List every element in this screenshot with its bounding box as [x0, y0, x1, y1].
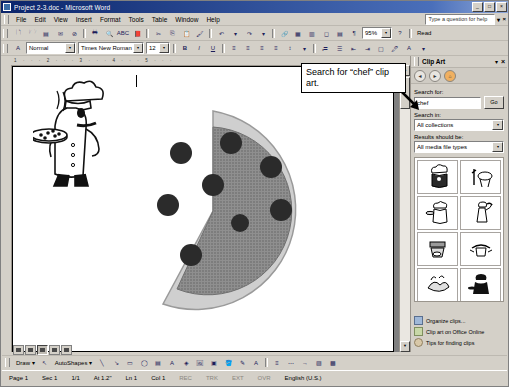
- microsoft-word-help-icon[interactable]: ?: [394, 27, 407, 40]
- organize-clips-link[interactable]: Organize clips...: [414, 316, 504, 325]
- bold-button[interactable]: B: [179, 42, 192, 55]
- chevron-down-icon[interactable]: ▾: [298, 42, 311, 55]
- scrollbar-track[interactable]: [400, 109, 410, 341]
- bullets-icon[interactable]: ☰: [333, 42, 346, 55]
- 3d-style-icon[interactable]: ▩: [327, 356, 340, 369]
- clip-art-results-grid[interactable]: [414, 157, 504, 302]
- print-preview-icon[interactable]: 🔍: [103, 27, 116, 40]
- spelling-icon[interactable]: ABC: [117, 27, 130, 40]
- chevron-down-icon[interactable]: ▾: [417, 42, 430, 55]
- chevron-down-icon[interactable]: ▾: [492, 142, 503, 152]
- formatting-toolbar-grip[interactable]: [3, 44, 8, 53]
- chevron-down-icon[interactable]: ▾: [159, 43, 169, 53]
- scroll-down-icon[interactable]: ▼: [400, 341, 410, 352]
- forward-arrow-icon[interactable]: ►: [429, 70, 441, 82]
- print-icon[interactable]: 🖶: [89, 27, 102, 40]
- show-formatting-icon[interactable]: ¶: [348, 27, 361, 40]
- redo-icon[interactable]: ↷: [243, 27, 256, 40]
- menu-item-edit[interactable]: Edit: [30, 15, 49, 24]
- copy-icon[interactable]: ⎘: [166, 27, 179, 40]
- align-left-icon[interactable]: ≡: [228, 42, 241, 55]
- italic-button[interactable]: I: [193, 42, 206, 55]
- font-combo[interactable]: Times New Roman ▾: [78, 42, 144, 54]
- line-color-icon[interactable]: ✎: [236, 356, 249, 369]
- menu-item-tools[interactable]: Tools: [125, 15, 148, 24]
- align-center-icon[interactable]: ≡: [242, 42, 255, 55]
- normal-view-button[interactable]: [13, 345, 24, 355]
- permission-icon[interactable]: ⊘: [68, 27, 81, 40]
- task-pane-close-icon[interactable]: ×: [501, 58, 505, 65]
- clip-art-online-link[interactable]: Clip art on Office Online: [414, 327, 504, 336]
- highlight-icon[interactable]: 🖊: [389, 42, 402, 55]
- menu-item-window[interactable]: Window: [171, 15, 202, 24]
- font-color-icon[interactable]: A: [250, 356, 263, 369]
- decrease-indent-icon[interactable]: ⇤: [347, 42, 360, 55]
- increase-indent-icon[interactable]: ⇥: [361, 42, 374, 55]
- menu-item-format[interactable]: Format: [96, 15, 125, 24]
- align-right-icon[interactable]: ≡: [256, 42, 269, 55]
- outline-view-button[interactable]: [49, 345, 60, 355]
- open-icon[interactable]: 🗁: [26, 27, 39, 40]
- zoom-combo[interactable]: 95% ▾: [362, 27, 392, 39]
- minimize-button[interactable]: _: [472, 2, 483, 12]
- reading-view-button[interactable]: [61, 345, 72, 355]
- standard-toolbar-grip[interactable]: [3, 29, 8, 38]
- fill-color-icon[interactable]: 🪣: [222, 356, 235, 369]
- close-button[interactable]: ×: [496, 2, 507, 12]
- maximize-button[interactable]: □: [484, 2, 495, 12]
- clip-art-thumbnail[interactable]: [460, 196, 501, 230]
- status-rec[interactable]: REC: [172, 375, 199, 381]
- task-pane-dropdown-icon[interactable]: ▾: [495, 58, 498, 65]
- cut-icon[interactable]: ✂: [152, 27, 165, 40]
- dash-style-icon[interactable]: ⋯: [285, 356, 298, 369]
- numbering-icon[interactable]: ≔: [319, 42, 332, 55]
- columns-icon[interactable]: ▥: [306, 27, 319, 40]
- pizza-with-missing-slice[interactable]: [103, 105, 323, 317]
- document-page[interactable]: [12, 66, 394, 352]
- help-dropdown-icon[interactable]: ▾: [497, 16, 500, 23]
- clip-art-thumbnail[interactable]: [417, 160, 458, 194]
- paste-icon[interactable]: 📋: [180, 27, 193, 40]
- vertical-ruler[interactable]: [2, 65, 12, 352]
- clip-art-thumbnail[interactable]: [417, 196, 458, 230]
- outside-border-icon[interactable]: ▢: [375, 42, 388, 55]
- shadow-style-icon[interactable]: ▨: [313, 356, 326, 369]
- chevron-down-icon[interactable]: ▾: [381, 28, 391, 38]
- arrow-icon[interactable]: ↘: [110, 356, 123, 369]
- drawing-icon[interactable]: ◻: [320, 27, 333, 40]
- oval-icon[interactable]: ◯: [138, 356, 151, 369]
- clip-art-thumbnail[interactable]: [460, 160, 501, 194]
- help-search-input[interactable]: Type a question for help: [425, 14, 495, 25]
- chevron-down-icon[interactable]: ▾: [65, 43, 75, 53]
- chevron-down-icon[interactable]: ▾: [133, 43, 143, 53]
- clip-art-search-input[interactable]: chef: [414, 97, 481, 109]
- line-spacing-icon[interactable]: ↕: [284, 42, 297, 55]
- new-document-icon[interactable]: 🗋: [12, 27, 25, 40]
- document-map-icon[interactable]: ▤: [334, 27, 347, 40]
- diagram-icon[interactable]: ◈: [180, 356, 193, 369]
- textbox-icon[interactable]: ▤: [152, 356, 165, 369]
- menu-item-table[interactable]: Table: [148, 15, 172, 24]
- menu-item-insert[interactable]: Insert: [72, 15, 96, 24]
- clip-art-thumbnail[interactable]: [417, 268, 458, 302]
- menu-grip[interactable]: [4, 15, 9, 24]
- style-combo[interactable]: Normal ▾: [26, 42, 76, 54]
- wordart-icon[interactable]: A: [166, 356, 179, 369]
- drawing-toolbar-grip[interactable]: [5, 358, 10, 367]
- format-painter-icon[interactable]: 🖌: [194, 27, 207, 40]
- status-trk[interactable]: TRK: [199, 375, 225, 381]
- save-icon[interactable]: ▤: [40, 27, 53, 40]
- rectangle-icon[interactable]: ▭: [124, 356, 137, 369]
- arrow-style-icon[interactable]: →: [299, 356, 312, 369]
- results-type-select[interactable]: All media file types ▾: [414, 141, 504, 153]
- clip-art-thumbnail[interactable]: [460, 268, 501, 302]
- clipart-icon[interactable]: 🖼: [194, 356, 207, 369]
- undo-dropdown-icon[interactable]: ▾: [229, 27, 242, 40]
- font-size-combo[interactable]: 12 ▾: [146, 42, 170, 54]
- font-color-icon[interactable]: A: [403, 42, 416, 55]
- draw-menu-button[interactable]: Draw ▾: [13, 359, 38, 366]
- close-window-icon[interactable]: ×: [502, 16, 506, 22]
- search-in-select[interactable]: All collections ▾: [414, 119, 504, 131]
- status-ext[interactable]: EXT: [225, 375, 251, 381]
- menu-item-view[interactable]: View: [50, 15, 72, 24]
